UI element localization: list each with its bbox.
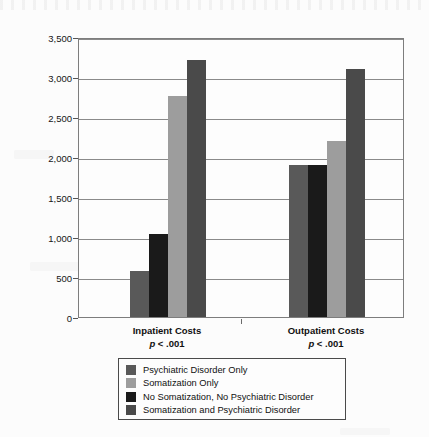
y-axis-tick-mark xyxy=(73,318,78,319)
legend-swatch-icon xyxy=(126,405,136,415)
bar-chart-figure: Adjusted Effect Estimate, $ 05001,0001,5… xyxy=(0,0,429,437)
y-axis-tick-label: 1,500 xyxy=(48,193,72,204)
legend-item-label: No Somatization, No Psychiatric Disorder xyxy=(143,392,314,402)
plot-area xyxy=(78,38,404,318)
y-axis-tick-label: 1,000 xyxy=(48,233,72,244)
y-axis-tick-label: 3,000 xyxy=(48,73,72,84)
y-axis-tick-label: 2,000 xyxy=(48,153,72,164)
scan-artifact xyxy=(340,428,390,435)
y-axis-tick-label: 2,500 xyxy=(48,113,72,124)
legend-item[interactable]: Somatization Only xyxy=(126,377,339,390)
y-axis-tick-mark xyxy=(73,278,78,279)
x-axis-group-name: Inpatient Costs xyxy=(97,325,237,338)
bar xyxy=(308,165,327,317)
legend-item-label: Somatization Only xyxy=(143,378,218,388)
legend-swatch-icon xyxy=(126,392,136,402)
legend-swatch-icon xyxy=(126,378,136,388)
x-axis-tick-mark xyxy=(241,319,242,324)
bar xyxy=(327,141,346,317)
legend-item-label: Psychiatric Disorder Only xyxy=(143,365,247,375)
legend-item[interactable]: Somatization and Psychiatric Disorder xyxy=(126,404,339,417)
y-axis-tick-mark xyxy=(73,118,78,119)
x-axis-group-pvalue: p < .001 xyxy=(256,338,396,351)
y-axis-tick-mark xyxy=(73,78,78,79)
x-axis-group-name: Outpatient Costs xyxy=(256,325,396,338)
bar xyxy=(149,234,168,317)
legend-swatch-icon xyxy=(126,365,136,375)
y-axis-tick-mark xyxy=(73,198,78,199)
legend-item[interactable]: Psychiatric Disorder Only xyxy=(126,363,339,376)
legend-item[interactable]: No Somatization, No Psychiatric Disorder xyxy=(126,390,339,403)
y-axis-tick-label: 500 xyxy=(56,273,72,284)
bar xyxy=(187,60,206,317)
y-axis-tick-mark xyxy=(73,158,78,159)
scan-artifact-top xyxy=(0,0,429,10)
y-axis-tick-mark xyxy=(73,38,78,39)
chart-legend: Psychiatric Disorder OnlySomatization On… xyxy=(118,358,346,420)
legend-item-label: Somatization and Psychiatric Disorder xyxy=(143,405,300,415)
bar xyxy=(168,96,187,317)
bar xyxy=(346,69,365,317)
y-axis-tick-labels: 05001,0001,5002,0002,5003,0003,500 xyxy=(30,38,72,318)
x-axis-group-label: Outpatient Costsp < .001 xyxy=(256,325,396,350)
y-axis-tick-mark xyxy=(73,238,78,239)
y-axis-tick-label: 0 xyxy=(67,313,72,324)
gridline xyxy=(79,39,403,40)
bar xyxy=(130,271,149,317)
bar xyxy=(289,165,308,317)
x-axis-group-pvalue: p < .001 xyxy=(97,338,237,351)
x-axis-group-label: Inpatient Costsp < .001 xyxy=(97,325,237,350)
y-axis-tick-label: 3,500 xyxy=(48,33,72,44)
